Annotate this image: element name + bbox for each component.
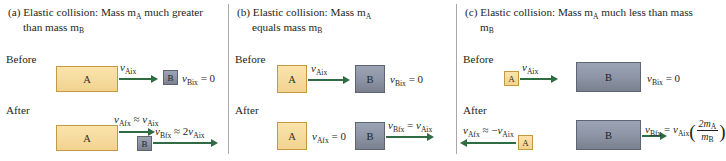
panel-b-before-block-b-label: B [366, 74, 373, 85]
panel-b-after-block-b: B [355, 122, 385, 150]
panel-b-before-block-a: A [277, 65, 307, 93]
panel-c-title-line1: (c) Elastic collision: Mass m [465, 6, 593, 18]
panel-c-after-block-a-label: A [522, 138, 529, 148]
panel-a-after-arrow-b [153, 142, 212, 144]
panel-b-title-line1: (b) Elastic collision: Mass m [237, 6, 366, 18]
frac-denominator: m [701, 131, 708, 142]
panel-c-before-block-a: A [504, 71, 519, 86]
panel-b-after-v-b-label: vBfx = vAix [388, 120, 432, 131]
panel-a-title-sub1: A [136, 12, 141, 21]
panel-a-before-v-a-label: vAix [120, 62, 136, 73]
panel-a-after-block-a: A [56, 125, 118, 151]
panel-b-after-v-b-rhs-sub: Aix [421, 125, 432, 134]
panel-a-after-block-a-label: A [83, 133, 91, 144]
panel-c-after-v-b-label: vBfx = vAix(2mAmB) [645, 118, 726, 143]
panel-b-after-block-a-label: A [288, 131, 296, 142]
panel-c-after-v-a-lhs-sub: Afx [468, 130, 480, 139]
panel-a-after-v-b-lhs-sub: Bfx [160, 131, 171, 140]
panel-a-before-v-a-sub: Aix [125, 67, 136, 76]
panel-c-after-label: After [463, 104, 487, 116]
panel-a-title-line1b: much greater [142, 6, 204, 18]
panel-b-before-v-b-label: vBix = 0 [390, 74, 423, 85]
panel-c-title: (c) Elastic collision: Mass mA much less… [465, 6, 697, 35]
panel-c-after-v-a-rel: ≈ − [480, 124, 498, 136]
panel-b-title-sub1: A [366, 12, 371, 21]
panel-c-before-v-a-label: vAix [522, 62, 538, 73]
panel-c-after-v-a-rhs-sub: Aix [502, 130, 513, 139]
paren-open: ( [689, 121, 695, 142]
panel-a-after-label: After [6, 104, 30, 116]
mass-ratio-fraction: 2mAmB [697, 118, 719, 143]
paren-close: ) [719, 121, 725, 142]
panel-c-after-block-b-label: B [605, 130, 612, 141]
frac-numerator: 2m [699, 118, 711, 129]
panel-c-after-v-b-rel: = [661, 123, 673, 135]
panel-b-before-v-a-label: vAix [311, 63, 327, 74]
panel-b-title-sub2: B [317, 26, 322, 35]
panel-b-after-block-a: A [277, 122, 307, 150]
panel-c-before-label: Before [463, 53, 493, 65]
frac-denominator-sub: B [709, 135, 714, 144]
panel-b-after-v-b-lhs-sub: Bfx [393, 125, 404, 134]
panel-a-after-v-b-rel: ≈ 2 [171, 125, 188, 137]
panel-b-after-block-b-label: B [366, 131, 373, 142]
panel-a-before-block-a-label: A [83, 74, 91, 85]
panel-c-after-arrow-a [466, 142, 516, 144]
panel-a-after-v-a-label: vAfx ≈ vAix [114, 114, 159, 125]
panel-b: (b) Elastic collision: Mass mA equals ma… [229, 0, 456, 161]
panel-b-after-v-a-lhs-sub: Afx [317, 136, 329, 145]
panel-a-after-arrow-a [119, 131, 149, 133]
panel-a-after-v-b-label: vBfx ≈ 2vAix [155, 126, 205, 137]
panel-b-title-line2: equals mass m [252, 21, 317, 33]
panel-a-title-sub2: B [79, 26, 84, 35]
panel-a-before-v-b-label: vBix = 0 [182, 73, 215, 84]
panel-a-before-label: Before [6, 53, 36, 65]
panel-c-title-sub2: B [489, 26, 494, 35]
panel-a-after-v-a-lhs-sub: Afx [119, 119, 131, 128]
panel-a-title-line1: (a) Elastic collision: Mass m [8, 6, 136, 18]
panel-a-after-v-a-rel: ≈ [131, 113, 143, 125]
panel-c-after-v-b-lhs-sub: Bfx [650, 129, 661, 138]
panel-b-before-v-b-sub: Bix [395, 79, 406, 88]
panel-a-title: (a) Elastic collision: Mass mA much grea… [8, 6, 223, 35]
panel-c-before-v-b-value: = 0 [663, 72, 680, 84]
panel-c-after-v-b-rhs-sub: Aix [678, 129, 689, 138]
panel-c-before-block-b-label: B [605, 72, 612, 83]
panel-a-before-block-b-label: B [167, 73, 173, 83]
panel-a-before-block-a: A [56, 66, 118, 92]
panel-a-before-arrow-a [119, 78, 152, 80]
panel-b-after-v-a-rel: = 0 [329, 130, 346, 142]
panel-a-after-v-b-rhs-sub: Aix [193, 131, 204, 140]
panel-b-after-v-a-label: vAfx = 0 [312, 131, 346, 142]
panel-c: (c) Elastic collision: Mass mA much less… [457, 0, 698, 161]
panel-b-before-block-b: B [355, 65, 385, 93]
panel-b-title: (b) Elastic collision: Mass mA equals ma… [237, 6, 452, 35]
panel-a-before-v-b-sub: Bix [187, 78, 198, 87]
panel-c-before-v-a-sub: Aix [527, 67, 538, 76]
panel-a: (a) Elastic collision: Mass mA much grea… [0, 0, 228, 161]
panel-a-after-block-b-label: B [141, 139, 147, 149]
panel-c-after-block-b: B [576, 120, 641, 150]
panel-b-before-block-a-label: A [288, 74, 296, 85]
panel-b-after-v-b-rel: = [404, 119, 416, 131]
frac-numerator-sub: A [711, 122, 716, 131]
panel-b-after-arrow-b [386, 136, 428, 138]
panel-c-before-v-b-label: vBix = 0 [647, 73, 680, 84]
panel-a-before-v-b-value: = 0 [198, 72, 215, 84]
panel-c-after-v-a-label: vAfx ≈ −vAix [463, 125, 514, 136]
panel-c-after-block-a: A [518, 135, 533, 150]
panel-a-title-line2: than mass m [23, 21, 79, 33]
panel-c-before-block-a-label: A [508, 74, 515, 84]
panel-b-after-label: After [235, 104, 259, 116]
panel-c-title-sub1: A [593, 12, 598, 21]
panel-c-before-arrow-a [520, 78, 552, 80]
panel-b-before-v-b-value: = 0 [406, 73, 423, 85]
panel-b-before-v-a-sub: Aix [316, 68, 327, 77]
panel-a-after-block-b: B [137, 136, 152, 151]
panel-a-before-block-b: B [163, 70, 178, 85]
panel-b-before-arrow-a [308, 79, 344, 81]
panel-b-before-label: Before [235, 53, 265, 65]
panel-c-before-block-b: B [576, 62, 641, 92]
panel-c-before-v-b-sub: Bix [652, 78, 663, 87]
